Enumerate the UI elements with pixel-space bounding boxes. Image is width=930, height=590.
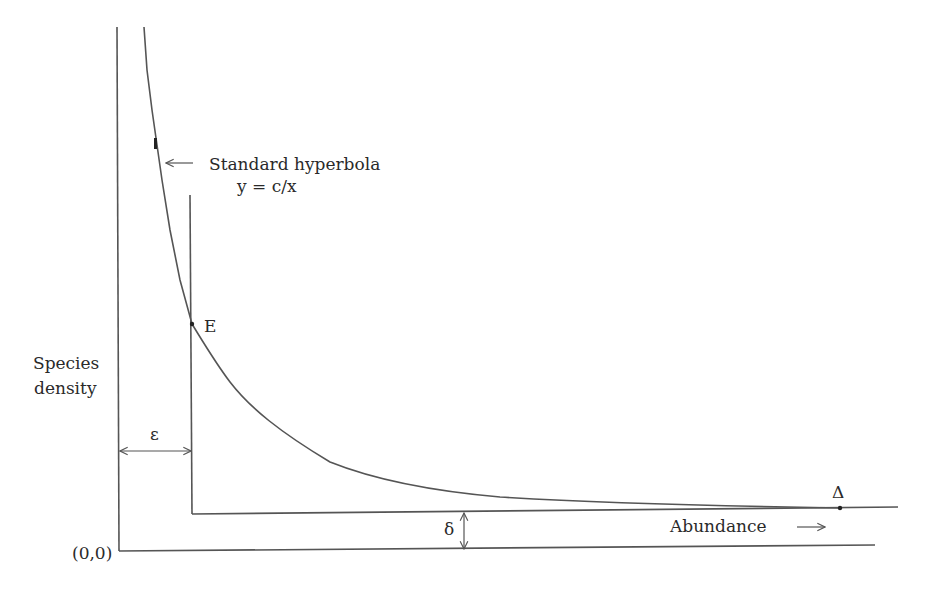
origin-label: (0,0) xyxy=(72,545,112,562)
y-axis-label-line1: Species xyxy=(33,355,99,372)
curve-mark xyxy=(154,138,157,149)
hyperbola-curve xyxy=(144,27,840,508)
shifted-y-axis xyxy=(190,195,192,514)
y-axis-label-line2: density xyxy=(34,380,97,397)
delta-label: δ xyxy=(444,521,454,538)
x-axis-label: Abundance xyxy=(670,518,767,535)
point-delta-label: Δ xyxy=(832,484,844,501)
curve-equation-label: y = c/x xyxy=(237,178,297,195)
point-e-label: E xyxy=(204,318,216,335)
point-delta-marker xyxy=(838,506,842,510)
shifted-x-axis xyxy=(192,507,898,514)
curve-name-label: Standard hyperbola xyxy=(209,156,380,173)
point-e-marker xyxy=(190,322,194,326)
diagram-canvas xyxy=(0,0,930,590)
epsilon-label: ε xyxy=(150,426,159,443)
outer-y-axis xyxy=(117,27,119,551)
outer-x-axis xyxy=(119,545,875,551)
